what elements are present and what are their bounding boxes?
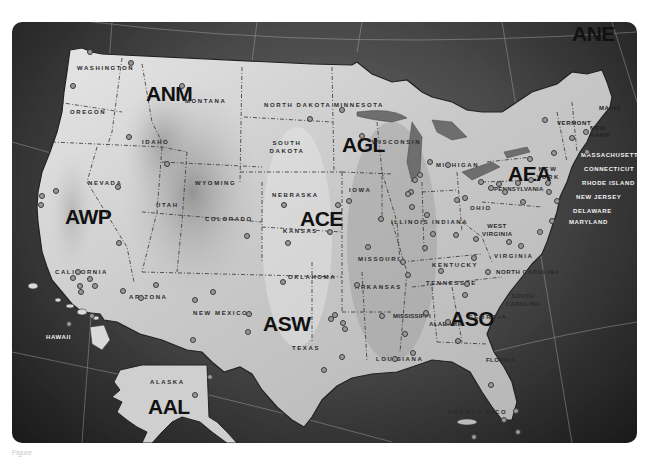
state-label-ohio: OHIO (470, 205, 492, 211)
office-marker-icon (244, 233, 250, 239)
state-label-wisconsin: WISCONSIN (372, 139, 421, 145)
office-marker-icon (545, 180, 551, 186)
office-marker-icon (471, 434, 477, 440)
office-marker-icon (528, 177, 534, 183)
office-marker-icon (583, 129, 589, 135)
office-marker-icon (379, 313, 385, 319)
state-label-new-mexico: NEW MEXICO (193, 310, 248, 316)
office-marker-icon (126, 134, 132, 140)
office-marker-icon (409, 204, 415, 210)
us-terrain-map (12, 22, 637, 443)
office-marker-icon (506, 239, 512, 245)
state-label-kansas: KANSAS (283, 228, 318, 234)
state-label-illinois: ILLINOIS (391, 219, 429, 225)
state-label-wyoming: WYOMING (195, 180, 236, 186)
office-marker-icon (554, 198, 560, 204)
office-marker-icon (445, 162, 451, 168)
office-marker-icon (518, 243, 524, 249)
office-marker-icon (192, 297, 198, 303)
office-marker-icon (464, 281, 470, 287)
office-marker-icon (89, 313, 95, 319)
state-label-maryland: MARYLAND (569, 219, 608, 225)
state-label-montana: MONTANA (185, 98, 226, 104)
office-marker-icon (485, 269, 491, 275)
office-marker-icon (392, 356, 398, 362)
office-marker-icon (427, 159, 433, 165)
office-marker-icon (92, 283, 98, 289)
office-marker-icon (78, 289, 84, 295)
region-label-awp: AWP (65, 205, 111, 229)
office-marker-icon (527, 156, 533, 162)
state-label-west-virginia: WESTVIRGINIA (482, 222, 512, 238)
office-marker-icon (39, 193, 45, 199)
state-label-alaska: ALASKA (150, 379, 185, 385)
office-marker-icon (87, 276, 93, 282)
state-label-utah: UTAH (156, 202, 179, 208)
state-label-nebraska: NEBRASKA (272, 192, 319, 198)
state-label-oklahoma: OKLAHOMA (288, 274, 336, 280)
state-label-missouri: MISSOURI (358, 256, 400, 262)
office-marker-icon (438, 268, 444, 274)
state-label-florida: FLORIDA (486, 357, 515, 363)
office-marker-icon (402, 331, 408, 337)
office-marker-icon (153, 282, 159, 288)
office-marker-icon (354, 282, 360, 288)
office-marker-icon (120, 288, 126, 294)
office-marker-icon (246, 311, 252, 317)
state-label-puerto-rico: PUERTO RICO (448, 409, 507, 415)
state-label-arkansas: ARKANSAS (355, 284, 402, 290)
office-marker-icon (365, 244, 371, 250)
state-label-oregon: OREGON (70, 109, 106, 115)
state-label-connecticut: CONNECTICUT (584, 166, 634, 172)
figure-caption: Figure (12, 449, 32, 456)
office-marker-icon (488, 382, 494, 388)
region-label-asw: ASW (263, 312, 311, 336)
office-marker-icon (422, 245, 428, 251)
office-marker-icon (462, 195, 468, 201)
puerto-rico (457, 419, 477, 425)
office-marker-icon (412, 177, 418, 183)
office-marker-icon (478, 179, 484, 185)
office-marker-icon (496, 181, 502, 187)
state-label-rhode-island: RHODE ISLAND (582, 180, 635, 186)
office-marker-icon (542, 117, 548, 123)
office-marker-icon (210, 289, 216, 295)
office-marker-icon (207, 374, 213, 380)
office-marker-icon (378, 216, 384, 222)
state-label-arizona: ARIZONA (129, 294, 168, 300)
region-label-ane: ANE (572, 22, 615, 46)
office-marker-icon (70, 83, 76, 89)
office-marker-icon (462, 292, 468, 298)
office-marker-icon (164, 161, 170, 167)
office-marker-icon (537, 229, 543, 235)
state-label-georgia: GEORGIA (468, 314, 508, 320)
office-marker-icon (584, 149, 590, 155)
office-marker-icon (430, 231, 436, 237)
office-marker-icon (405, 191, 411, 197)
office-marker-icon (192, 392, 198, 398)
state-label-idaho: IDAHO (142, 139, 169, 145)
state-label-maine: MAINE (599, 105, 621, 111)
state-label-north-dakota: NORTH DAKOTA (264, 102, 331, 108)
state-label-michigan: MICHIGAN (436, 162, 479, 168)
office-marker-icon (515, 180, 521, 186)
office-marker-icon (346, 198, 352, 204)
state-label-washington: WASHINGTON (77, 65, 134, 71)
office-marker-icon (38, 202, 44, 208)
office-marker-icon (417, 172, 423, 178)
office-marker-icon (410, 350, 416, 356)
office-marker-icon (179, 83, 185, 89)
office-marker-icon (128, 60, 134, 66)
state-label-colorado: COLORADO (205, 216, 253, 222)
state-label-kentucky: KENTUCKY (432, 262, 478, 268)
state-label-virginia: VIRGINIA (494, 253, 533, 259)
office-marker-icon (339, 354, 345, 360)
office-marker-icon (551, 150, 557, 156)
state-label-new-jersey: NEW JERSEY (576, 194, 621, 200)
office-marker-icon (321, 367, 327, 373)
state-label-south-dakota: SOUTH DAKOTA (267, 139, 307, 155)
state-label-louisiana: LOUISIANA (376, 356, 423, 362)
office-marker-icon (546, 189, 552, 195)
office-marker-icon (335, 202, 341, 208)
office-marker-icon (400, 259, 406, 265)
